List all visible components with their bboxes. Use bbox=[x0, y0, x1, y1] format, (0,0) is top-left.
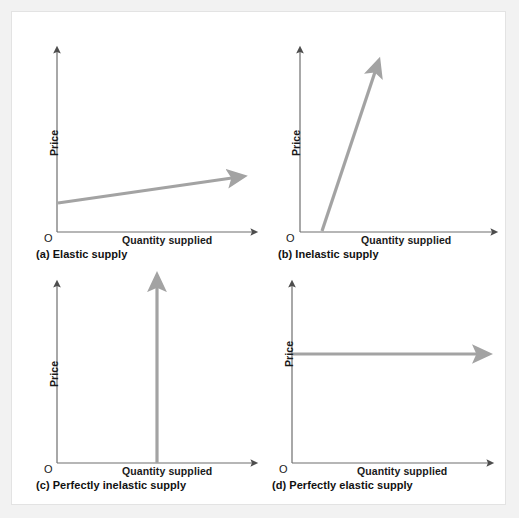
panel-perfectly-inelastic-supply: Price O Quantity supplied (c) Perfectly … bbox=[24, 262, 271, 508]
supply-curve bbox=[58, 178, 232, 203]
panel-caption: (b) Inelastic supply bbox=[278, 248, 379, 260]
x-axis-label: Quantity supplied bbox=[122, 234, 212, 246]
panel-caption: (d) Perfectly elastic supply bbox=[272, 479, 413, 491]
y-axis-label: Price bbox=[283, 341, 295, 367]
y-axis-label: Price bbox=[48, 361, 60, 387]
supply-curve bbox=[322, 72, 375, 231]
x-axis-label: Quantity supplied bbox=[357, 465, 447, 477]
figure-root: Price O Quantity supplied (a) Elastic su… bbox=[0, 0, 519, 518]
x-axis-label: Quantity supplied bbox=[361, 234, 451, 246]
y-axis-label: Price bbox=[48, 130, 60, 156]
y-axis-label: Price bbox=[290, 130, 302, 156]
origin-label: O bbox=[286, 232, 295, 244]
x-axis-label: Quantity supplied bbox=[122, 465, 212, 477]
panel-caption: (c) Perfectly inelastic supply bbox=[36, 479, 186, 491]
panel-caption: (a) Elastic supply bbox=[36, 248, 127, 260]
origin-label: O bbox=[44, 232, 53, 244]
panel-inelastic-supply: Price O Quantity supplied (b) Inelastic … bbox=[260, 24, 507, 270]
figure-frame: Price O Quantity supplied (a) Elastic su… bbox=[11, 11, 506, 505]
origin-label: O bbox=[279, 463, 288, 475]
origin-label: O bbox=[44, 463, 53, 475]
panel-elastic-supply: Price O Quantity supplied (a) Elastic su… bbox=[24, 24, 271, 270]
panel-perfectly-elastic-supply: Price O Quantity supplied (d) Perfectly … bbox=[260, 262, 507, 508]
